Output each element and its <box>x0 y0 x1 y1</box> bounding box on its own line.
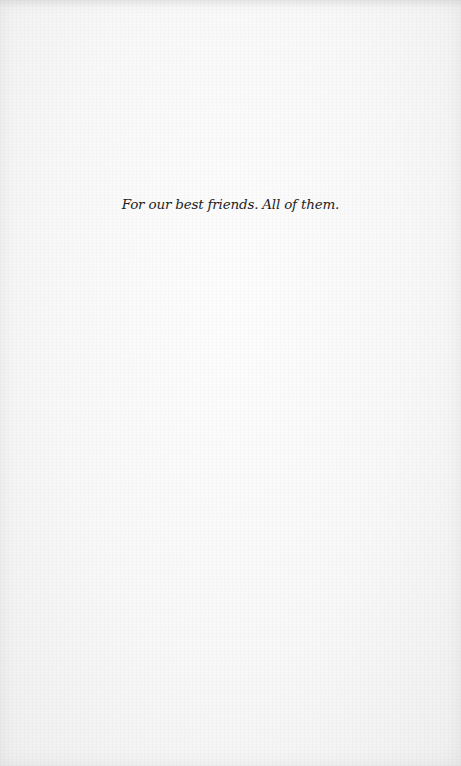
dedication-text: For our best friends. All of them. <box>0 194 461 214</box>
book-page: For our best friends. All of them. <box>0 0 461 766</box>
